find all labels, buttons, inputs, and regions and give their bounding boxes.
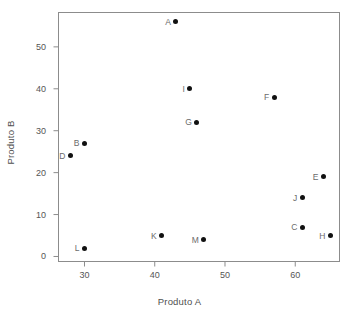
data-point-marker[interactable]: [82, 246, 87, 251]
data-point-label: L: [75, 243, 81, 253]
y-tick-label: 0: [24, 251, 46, 261]
data-point-label: I: [182, 84, 185, 94]
x-tick-label: 30: [79, 270, 89, 280]
data-point-label: H: [319, 231, 326, 241]
data-point-label: A: [165, 17, 172, 27]
data-point-label: C: [291, 222, 298, 232]
scatter-plot: 30405060 01020304050 ABCDEFGHIJKLM Produ…: [0, 0, 359, 318]
data-point-label: D: [59, 151, 66, 161]
y-tick-label: 20: [24, 168, 46, 178]
data-point-label: G: [185, 117, 193, 127]
data-point-marker[interactable]: [82, 141, 87, 146]
x-tick-label: 40: [150, 270, 160, 280]
y-tick-label: 50: [24, 42, 46, 52]
y-axis-ticks: [54, 47, 59, 257]
x-tick-label: 60: [290, 270, 300, 280]
y-tick-label: 30: [24, 126, 46, 136]
x-axis-ticks: [84, 262, 295, 267]
data-point-label: E: [313, 172, 320, 182]
data-point-label: J: [293, 193, 298, 203]
data-point-label: B: [74, 138, 81, 148]
x-axis-title: Produto A: [0, 296, 359, 307]
data-point-marker[interactable]: [300, 225, 305, 230]
y-tick-label: 40: [24, 84, 46, 94]
data-point-marker[interactable]: [272, 95, 277, 100]
data-point-label: M: [192, 235, 200, 245]
x-tick-label: 50: [220, 270, 230, 280]
data-point-label: K: [151, 231, 158, 241]
y-axis-title: Produto B: [5, 93, 16, 193]
data-point-marker[interactable]: [328, 233, 333, 238]
plot-frame: [0, 0, 359, 318]
y-tick-label: 10: [24, 210, 46, 220]
data-point-label: F: [264, 92, 270, 102]
